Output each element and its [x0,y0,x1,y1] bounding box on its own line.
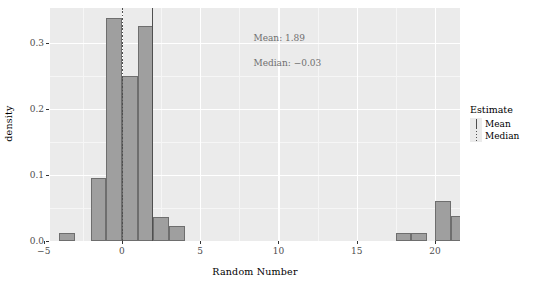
x-axis-title: Random Number [50,266,460,277]
x-tick-label: 20 [429,246,440,256]
legend-title: Estimate [470,104,540,115]
y-tick-label: 0.3 [30,38,44,48]
histogram-bar [169,226,185,241]
y-tick-mark [46,241,49,242]
y-axis-title: density [3,94,14,154]
histogram-bar [122,76,138,241]
histogram-bar [411,233,427,241]
plot-panel: Mean: 1.89Median: −0.03 [50,8,460,241]
y-tick-mark [46,43,49,44]
gridline-major-vertical [200,8,201,241]
x-tick-mark [278,241,279,244]
histogram-bar [396,233,412,241]
y-tick-label: 0.0 [30,236,44,246]
legend-label: Median [485,131,519,141]
x-tick-mark [122,241,123,244]
reference-line-mean [152,8,153,241]
legend-entries: MeanMedian [470,118,540,142]
annotation-text-0: Mean: 1.89 [253,33,305,43]
reference-line-median [122,8,123,241]
legend-item-mean[interactable]: Mean [470,118,540,130]
x-tick-label: −5 [37,246,50,256]
legend-key-solid-line-icon [470,118,482,130]
x-tick-label: 5 [197,246,203,256]
x-tick-mark [357,241,358,244]
gridline-major-vertical [357,8,358,241]
x-tick-mark [200,241,201,244]
annotation-text-1: Median: −0.03 [253,58,321,68]
legend: Estimate MeanMedian [470,104,540,142]
x-tick-label: 0 [119,246,125,256]
histogram-plot: Mean: 1.89Median: −0.03 Random Number de… [0,0,540,287]
y-tick-mark [46,109,49,110]
y-tick-label: 0.2 [30,104,44,114]
x-tick-mark [435,241,436,244]
histogram-bar [435,201,451,241]
histogram-bar [59,233,75,241]
histogram-bar [153,217,169,241]
legend-key-dotted-line-icon [470,130,482,142]
histogram-bar [91,178,107,241]
legend-item-median[interactable]: Median [470,130,540,142]
y-tick-label: 0.1 [30,170,44,180]
x-tick-label: 10 [273,246,284,256]
histogram-bar [451,216,460,241]
legend-label: Mean [485,119,511,129]
x-tick-label: 15 [351,246,362,256]
y-tick-mark [46,175,49,176]
histogram-bar [106,18,122,241]
